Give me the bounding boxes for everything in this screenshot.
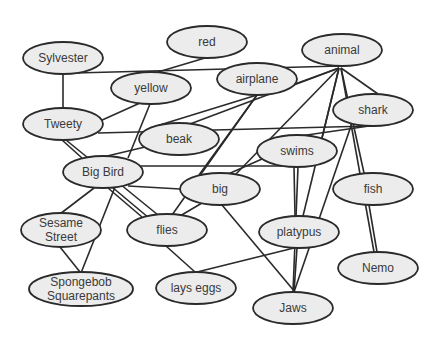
- node-nemo: Nemo: [338, 252, 418, 284]
- node-swims: swims: [257, 135, 337, 167]
- node-label: Big Bird: [82, 165, 124, 179]
- semantic-network-diagram: redanimalSylvesteryellowairplanesharkTwe…: [0, 0, 441, 340]
- edge-sylvester-animal: [75, 66, 340, 73]
- node-airplane: airplane: [217, 63, 297, 95]
- node-label: Nemo: [362, 261, 394, 275]
- edge-flies-layseggs: [166, 246, 195, 272]
- node-label: swims: [280, 144, 313, 158]
- edge-sesame-spongebob: [60, 247, 80, 272]
- node-label: shark: [358, 103, 388, 117]
- node-spongebob: SpongebobSquarepants: [29, 272, 133, 306]
- node-tweety: Tweety: [23, 108, 103, 140]
- node-label: Tweety: [44, 117, 82, 131]
- node-label: yellow: [134, 81, 168, 95]
- node-yellow: yellow: [111, 72, 191, 104]
- edge-platypus-layseggs: [197, 248, 294, 272]
- node-label: red: [198, 35, 215, 49]
- node-label: platypus: [277, 225, 322, 239]
- edge-yellow-tweety: [100, 103, 140, 121]
- edge-swims-platypus: [294, 167, 295, 216]
- node-jaws: Jaws: [253, 292, 333, 324]
- node-fish: fish: [333, 173, 413, 205]
- node-label: animal: [324, 43, 359, 57]
- edge-tweety-bigbird: [62, 140, 82, 158]
- node-label: Sylvester: [38, 51, 87, 65]
- node-flies: flies: [127, 214, 207, 246]
- node-label: fish: [364, 182, 383, 196]
- node-label: airplane: [236, 72, 279, 86]
- node-label: lays eggs: [171, 281, 222, 295]
- node-label: Jaws: [279, 301, 306, 315]
- nodes-layer: redanimalSylvesteryellowairplanesharkTwe…: [21, 26, 418, 324]
- node-animal: animal: [302, 34, 382, 66]
- node-big: big: [180, 173, 260, 205]
- node-label: Sesame: [39, 216, 83, 230]
- node-beak: beak: [139, 123, 219, 155]
- node-sesame: SesameStreet: [21, 213, 101, 247]
- node-bigbird: Big Bird: [63, 156, 143, 188]
- node-label: big: [212, 182, 228, 196]
- edge-bigbird-sesame: [60, 188, 94, 214]
- node-shark: shark: [333, 94, 413, 126]
- node-red: red: [167, 26, 247, 58]
- edge-big-flies: [180, 203, 202, 216]
- edge-bigbird-flies: [108, 188, 142, 217]
- node-layseggs: lays eggs: [156, 272, 236, 304]
- node-label: Spongebob: [50, 275, 112, 289]
- edge-bigbird-big: [128, 186, 180, 189]
- node-label: Street: [45, 230, 78, 244]
- node-label: Squarepants: [47, 289, 115, 303]
- node-label: flies: [156, 223, 177, 237]
- edge-big-swims: [226, 159, 262, 175]
- node-sylvester: Sylvester: [23, 42, 103, 74]
- node-label: beak: [166, 132, 193, 146]
- node-platypus: platypus: [259, 216, 339, 248]
